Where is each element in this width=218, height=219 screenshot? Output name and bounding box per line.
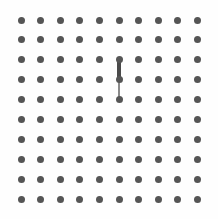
grid-dot[interactable] xyxy=(116,176,123,183)
grid-dot[interactable] xyxy=(116,116,123,123)
grid-dot[interactable] xyxy=(37,96,44,103)
grid-dot[interactable] xyxy=(96,136,103,143)
grid-dot[interactable] xyxy=(155,176,162,183)
grid-dot[interactable] xyxy=(174,156,181,163)
grid-dot[interactable] xyxy=(76,76,83,83)
grid-dot[interactable] xyxy=(155,36,162,43)
grid-dot[interactable] xyxy=(18,76,25,83)
grid-dot[interactable] xyxy=(174,96,181,103)
grid-dot[interactable] xyxy=(76,116,83,123)
dot-grid-board[interactable] xyxy=(0,0,218,219)
grid-dot[interactable] xyxy=(116,96,123,103)
grid-dot[interactable] xyxy=(18,196,25,203)
grid-dot[interactable] xyxy=(135,156,142,163)
grid-dot[interactable] xyxy=(96,17,103,24)
grid-dot[interactable] xyxy=(57,196,64,203)
grid-dot[interactable] xyxy=(116,156,123,163)
grid-dot[interactable] xyxy=(116,136,123,143)
grid-dot[interactable] xyxy=(37,136,44,143)
grid-dot[interactable] xyxy=(18,116,25,123)
grid-dot[interactable] xyxy=(18,136,25,143)
grid-dot[interactable] xyxy=(76,196,83,203)
grid-dot[interactable] xyxy=(96,56,103,63)
grid-dot[interactable] xyxy=(116,196,123,203)
grid-dot[interactable] xyxy=(194,56,201,63)
grid-dot[interactable] xyxy=(155,136,162,143)
grid-dot[interactable] xyxy=(116,76,123,83)
grid-dot[interactable] xyxy=(76,96,83,103)
grid-dot[interactable] xyxy=(155,116,162,123)
grid-dot[interactable] xyxy=(37,36,44,43)
grid-dot[interactable] xyxy=(174,136,181,143)
grid-dot[interactable] xyxy=(37,116,44,123)
grid-dot[interactable] xyxy=(155,96,162,103)
grid-dot[interactable] xyxy=(57,56,64,63)
grid-dot[interactable] xyxy=(96,76,103,83)
grid-dot[interactable] xyxy=(135,136,142,143)
grid-dot[interactable] xyxy=(116,17,123,24)
grid-dot[interactable] xyxy=(174,56,181,63)
grid-dot[interactable] xyxy=(57,156,64,163)
grid-dot[interactable] xyxy=(18,176,25,183)
grid-dot[interactable] xyxy=(135,36,142,43)
grid-dot[interactable] xyxy=(57,136,64,143)
grid-dot[interactable] xyxy=(194,76,201,83)
grid-dot[interactable] xyxy=(96,176,103,183)
grid-dot[interactable] xyxy=(155,156,162,163)
grid-dot[interactable] xyxy=(174,76,181,83)
grid-dot[interactable] xyxy=(155,56,162,63)
grid-dot[interactable] xyxy=(76,136,83,143)
grid-dot[interactable] xyxy=(96,96,103,103)
grid-dot[interactable] xyxy=(194,136,201,143)
grid-dot[interactable] xyxy=(96,196,103,203)
grid-dot[interactable] xyxy=(135,96,142,103)
grid-dot[interactable] xyxy=(194,196,201,203)
grid-dot[interactable] xyxy=(37,76,44,83)
grid-dot[interactable] xyxy=(194,17,201,24)
grid-dot[interactable] xyxy=(135,116,142,123)
grid-dot[interactable] xyxy=(96,156,103,163)
grid-dot[interactable] xyxy=(155,196,162,203)
grid-dot[interactable] xyxy=(135,196,142,203)
grid-dot[interactable] xyxy=(194,156,201,163)
grid-dot[interactable] xyxy=(76,156,83,163)
grid-dot[interactable] xyxy=(194,116,201,123)
grid-dot[interactable] xyxy=(57,17,64,24)
grid-dot[interactable] xyxy=(37,196,44,203)
grid-dot[interactable] xyxy=(174,196,181,203)
grid-dot[interactable] xyxy=(57,96,64,103)
grid-dot[interactable] xyxy=(18,17,25,24)
grid-dot[interactable] xyxy=(57,176,64,183)
grid-dot[interactable] xyxy=(18,156,25,163)
grid-dot[interactable] xyxy=(116,56,123,63)
grid-dot[interactable] xyxy=(194,36,201,43)
grid-dot[interactable] xyxy=(76,176,83,183)
grid-dot[interactable] xyxy=(96,116,103,123)
grid-dot[interactable] xyxy=(96,36,103,43)
grid-dot[interactable] xyxy=(135,56,142,63)
grid-dot[interactable] xyxy=(174,116,181,123)
grid-dot[interactable] xyxy=(37,156,44,163)
grid-dot[interactable] xyxy=(174,176,181,183)
grid-dot[interactable] xyxy=(57,116,64,123)
grid-dot[interactable] xyxy=(76,36,83,43)
grid-dot[interactable] xyxy=(57,36,64,43)
grid-dot[interactable] xyxy=(116,36,123,43)
grid-dot[interactable] xyxy=(76,56,83,63)
grid-dot[interactable] xyxy=(76,17,83,24)
grid-dot[interactable] xyxy=(194,96,201,103)
grid-dot[interactable] xyxy=(37,176,44,183)
grid-dot[interactable] xyxy=(37,56,44,63)
grid-dot[interactable] xyxy=(18,56,25,63)
grid-dot[interactable] xyxy=(37,17,44,24)
grid-dot[interactable] xyxy=(57,76,64,83)
grid-dot[interactable] xyxy=(135,176,142,183)
grid-dot[interactable] xyxy=(18,36,25,43)
grid-dot[interactable] xyxy=(174,17,181,24)
grid-dot[interactable] xyxy=(155,17,162,24)
grid-dot[interactable] xyxy=(155,76,162,83)
grid-dot[interactable] xyxy=(174,36,181,43)
grid-dot[interactable] xyxy=(135,17,142,24)
grid-dot[interactable] xyxy=(135,76,142,83)
grid-dot[interactable] xyxy=(18,96,25,103)
